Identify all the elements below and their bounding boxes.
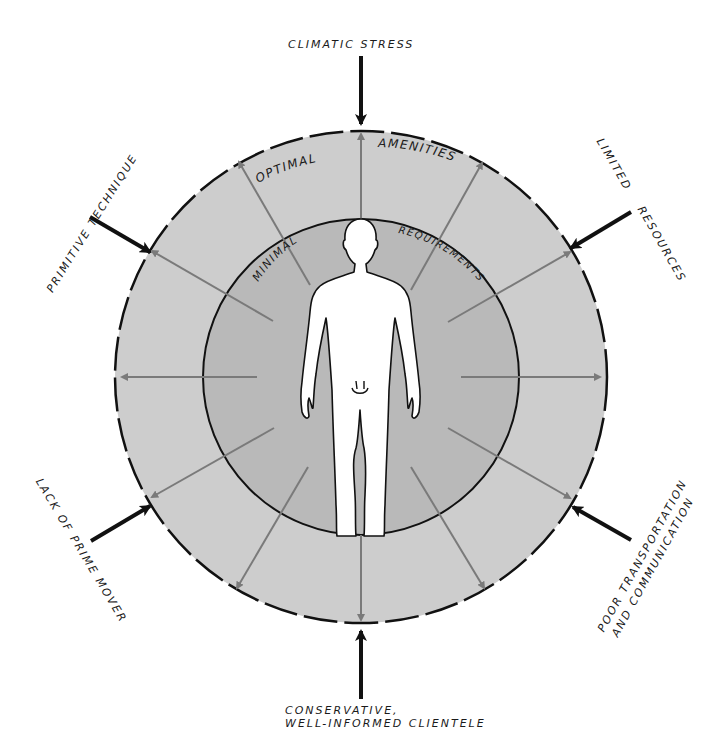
well-informed-clientele-label: WELL-INFORMED CLIENTELE bbox=[285, 717, 486, 730]
climatic-stress-label: CLIMATIC STRESS bbox=[288, 38, 414, 51]
conservative-label: CONSERVATIVE, bbox=[285, 704, 399, 717]
lack-of-prime-mover-arrow-icon bbox=[91, 506, 150, 541]
human-needs-diagram: OPTIMAL AMENITIES MINIMAL REQUIREMENTS bbox=[0, 0, 719, 749]
poor-transportation-arrow-icon bbox=[573, 507, 631, 540]
limited-resources-arrow-icon bbox=[571, 212, 631, 248]
